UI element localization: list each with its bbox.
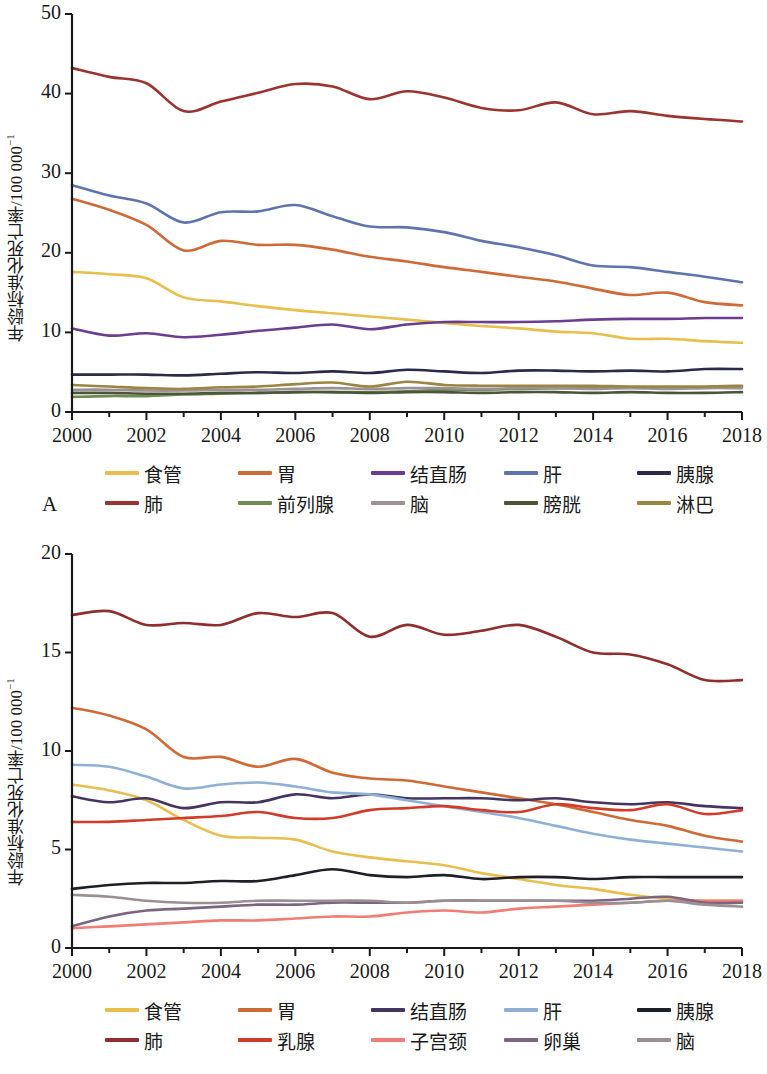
- legend-label: 卵巢: [543, 1027, 581, 1054]
- legend-item-结直肠[interactable]: 结直肠: [371, 460, 504, 487]
- legend-item-脑[interactable]: 脑: [637, 1027, 695, 1054]
- legend-label: 肝: [543, 460, 562, 487]
- series-line-panel-a-5: [72, 68, 742, 121]
- legend-item-脑[interactable]: 脑: [371, 490, 504, 517]
- legend-swatch-icon: [637, 1038, 671, 1042]
- series-line-panel-b-5: [72, 611, 742, 681]
- legend-swatch-icon: [105, 501, 139, 505]
- axes-lines: [72, 14, 742, 412]
- legend-item-淋巴[interactable]: 淋巴: [637, 490, 714, 517]
- legend-swatch-icon: [238, 471, 272, 475]
- panel-b: 年龄标准化死亡率/100 000−1 051015202000200220042…: [0, 540, 767, 1074]
- x-tick-label: 2000: [52, 960, 92, 982]
- line-chart-a: 0102030405020002002200420062008201020122…: [0, 0, 767, 460]
- legend-item-肝[interactable]: 肝: [504, 997, 637, 1024]
- y-tick-label: 20: [41, 541, 61, 563]
- legend-item-乳腺[interactable]: 乳腺: [238, 1027, 371, 1054]
- legend-label: 肺: [144, 1027, 163, 1054]
- legend-item-肺[interactable]: 肺: [105, 490, 238, 517]
- legend-swatch-icon: [105, 1008, 139, 1012]
- series-line-panel-a-0: [72, 272, 742, 343]
- y-tick-label: 20: [41, 239, 61, 261]
- legend-label: 结直肠: [410, 460, 467, 487]
- legend-swatch-icon: [238, 1008, 272, 1012]
- legend-label: 胃: [277, 460, 296, 487]
- legend-swatch-icon: [105, 1038, 139, 1042]
- y-tick-label: 50: [41, 1, 61, 23]
- y-tick-label: 15: [41, 639, 61, 661]
- legend-row: 食管胃结直肠肝胰腺: [0, 458, 767, 488]
- x-tick-label: 2016: [648, 424, 688, 446]
- legend-item-肺[interactable]: 肺: [105, 1027, 238, 1054]
- x-tick-label: 2008: [350, 960, 390, 982]
- legend-swatch-icon: [238, 1038, 272, 1042]
- x-tick-label: 2010: [424, 960, 464, 982]
- legend-item-子宫颈[interactable]: 子宫颈: [371, 1027, 504, 1054]
- legend-a: 食管胃结直肠肝胰腺肺前列腺脑膀胱淋巴: [0, 458, 767, 518]
- x-tick-label: 2014: [573, 960, 613, 982]
- legend-label: 食管: [144, 460, 182, 487]
- legend-row: 肺乳腺子宫颈卵巢脑: [0, 1025, 767, 1055]
- x-tick-label: 2006: [275, 424, 315, 446]
- legend-swatch-icon: [105, 471, 139, 475]
- legend-swatch-icon: [371, 1008, 405, 1012]
- x-tick-label: 2012: [499, 960, 539, 982]
- panel-letter-a: A: [42, 492, 57, 517]
- legend-label: 肺: [144, 490, 163, 517]
- x-tick-label: 2016: [648, 960, 688, 982]
- legend-swatch-icon: [504, 501, 538, 505]
- legend-row: 食管胃结直肠肝胰腺: [0, 995, 767, 1025]
- legend-label: 结直肠: [410, 997, 467, 1024]
- legend-item-胃[interactable]: 胃: [238, 997, 371, 1024]
- legend-label: 乳腺: [277, 1027, 315, 1054]
- legend-item-卵巢[interactable]: 卵巢: [504, 1027, 637, 1054]
- legend-item-膀胱[interactable]: 膀胱: [504, 490, 637, 517]
- legend-label: 肝: [543, 997, 562, 1024]
- legend-item-肝[interactable]: 肝: [504, 460, 637, 487]
- legend-swatch-icon: [371, 471, 405, 475]
- x-tick-label: 2002: [126, 424, 166, 446]
- x-tick-label: 2006: [275, 960, 315, 982]
- y-tick-label: 5: [51, 836, 61, 858]
- legend-item-前列腺[interactable]: 前列腺: [238, 490, 371, 517]
- x-tick-label: 2004: [201, 960, 241, 982]
- panel-a: 年龄标准化死亡率/100 000−1 010203040502000200220…: [0, 0, 767, 540]
- legend-item-胰腺[interactable]: 胰腺: [637, 997, 714, 1024]
- series-line-panel-a-8: [72, 392, 742, 394]
- y-tick-label: 10: [41, 319, 61, 341]
- series-line-panel-b-7: [72, 901, 742, 929]
- legend-label: 子宫颈: [410, 1027, 467, 1054]
- legend-label: 胃: [277, 997, 296, 1024]
- legend-item-胃[interactable]: 胃: [238, 460, 371, 487]
- legend-b: 食管胃结直肠肝胰腺肺乳腺子宫颈卵巢脑: [0, 995, 767, 1055]
- legend-swatch-icon: [504, 1038, 538, 1042]
- y-axis-label-a: 年龄标准化死亡率/100 000−1: [4, 88, 29, 388]
- series-line-panel-a-3: [72, 185, 742, 282]
- y-tick-label: 0: [51, 399, 61, 421]
- legend-row: 肺前列腺脑膀胱淋巴: [0, 488, 767, 518]
- y-tick-label: 10: [41, 738, 61, 760]
- legend-item-食管[interactable]: 食管: [105, 460, 238, 487]
- legend-swatch-icon: [637, 501, 671, 505]
- y-tick-label: 0: [51, 935, 61, 957]
- x-tick-label: 2018: [722, 960, 762, 982]
- legend-label: 膀胱: [543, 490, 581, 517]
- legend-swatch-icon: [504, 471, 538, 475]
- legend-item-胰腺[interactable]: 胰腺: [637, 460, 714, 487]
- series-line-panel-a-1: [72, 199, 742, 306]
- legend-swatch-icon: [637, 471, 671, 475]
- line-chart-b: 0510152020002002200420062008201020122014…: [0, 540, 767, 995]
- legend-swatch-icon: [637, 1008, 671, 1012]
- x-tick-label: 2014: [573, 424, 613, 446]
- legend-item-食管[interactable]: 食管: [105, 997, 238, 1024]
- legend-swatch-icon: [504, 1008, 538, 1012]
- legend-label: 胰腺: [676, 460, 714, 487]
- legend-item-结直肠[interactable]: 结直肠: [371, 997, 504, 1024]
- x-tick-label: 2000: [52, 424, 92, 446]
- legend-label: 食管: [144, 997, 182, 1024]
- legend-swatch-icon: [371, 501, 405, 505]
- x-tick-label: 2008: [350, 424, 390, 446]
- legend-label: 淋巴: [676, 490, 714, 517]
- legend-label: 脑: [676, 1027, 695, 1054]
- x-tick-label: 2012: [499, 424, 539, 446]
